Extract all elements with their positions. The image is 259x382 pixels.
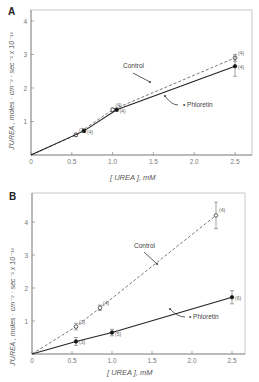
x-tick-label: 1.5 [149, 158, 158, 165]
plot-frame [32, 193, 245, 354]
plot-area: 00.51.01.52.02.51234(3)(4)(4)(3)(5)(6)Co… [0, 188, 259, 382]
x-tick-label: 1.0 [107, 357, 116, 364]
phloretin-data-point [82, 129, 86, 133]
x-tick-label: 2.5 [227, 357, 236, 364]
control-annotation: Control [134, 242, 156, 249]
y-tick-label: 4 [23, 18, 27, 25]
y-tick-label: 2 [24, 285, 28, 292]
x-tick-label: 0 [30, 357, 34, 364]
n-label: (4) [219, 207, 225, 213]
x-tick-label: 0 [29, 158, 33, 165]
x-tick-label: 2.5 [230, 158, 239, 165]
x-tick-label: 2.0 [190, 158, 199, 165]
n-label: (4) [238, 64, 244, 70]
control-annotation: Control [123, 62, 145, 69]
control-line [32, 215, 216, 354]
phloretin-data-point [74, 340, 78, 344]
y-tick-label: 2 [23, 85, 27, 92]
chart-panel-b: B J'UREA , moles · cm⁻² · sec⁻¹ x 10⁻¹² … [0, 188, 259, 382]
phloretin-data-point [115, 108, 119, 112]
n-label: (5) [115, 331, 121, 337]
plot-frame [31, 10, 252, 155]
n-label: (3) [79, 319, 85, 325]
phloretin-annotation: • Phloretin [183, 101, 213, 108]
x-tick-label: 0.5 [67, 357, 76, 364]
y-tick-label: 3 [24, 252, 28, 259]
control-data-point [98, 306, 102, 310]
chart-panel-a: A J'UREA , moles · cm⁻² · sec⁻¹ x 10⁻¹² … [0, 0, 259, 190]
y-tick-label: 1 [23, 118, 27, 125]
n-label: (3) [79, 339, 85, 345]
phloretin-line [31, 66, 235, 155]
y-tick-label: 3 [23, 51, 27, 58]
y-tick-label: 1 [24, 318, 28, 325]
plot-area: 00.51.01.52.02.51234(7)(4)(4)(4)(4)(4)Co… [0, 0, 259, 190]
phloretin-data-point [230, 295, 234, 299]
x-tick-label: 0.5 [67, 158, 76, 165]
y-tick-label: 4 [24, 219, 28, 226]
control-data-point [74, 325, 78, 329]
phloretin-line [32, 297, 232, 354]
phloretin-data-point [110, 331, 114, 335]
arrow-icon [144, 252, 157, 264]
n-label: (6) [235, 295, 241, 301]
x-tick-label: 1.5 [147, 357, 156, 364]
n-label: (4) [238, 50, 244, 56]
n-label: (4) [87, 129, 93, 135]
arrow-icon [165, 96, 178, 105]
n-label: (4) [103, 300, 109, 306]
x-tick-label: 2.0 [187, 357, 196, 364]
x-tick-label: 1.0 [108, 158, 117, 165]
phloretin-annotation: • Phloretin [189, 313, 219, 320]
n-label: (4) [120, 108, 126, 114]
arrow-icon [133, 73, 150, 82]
control-data-point [214, 214, 218, 218]
phloretin-data-point [233, 64, 237, 68]
